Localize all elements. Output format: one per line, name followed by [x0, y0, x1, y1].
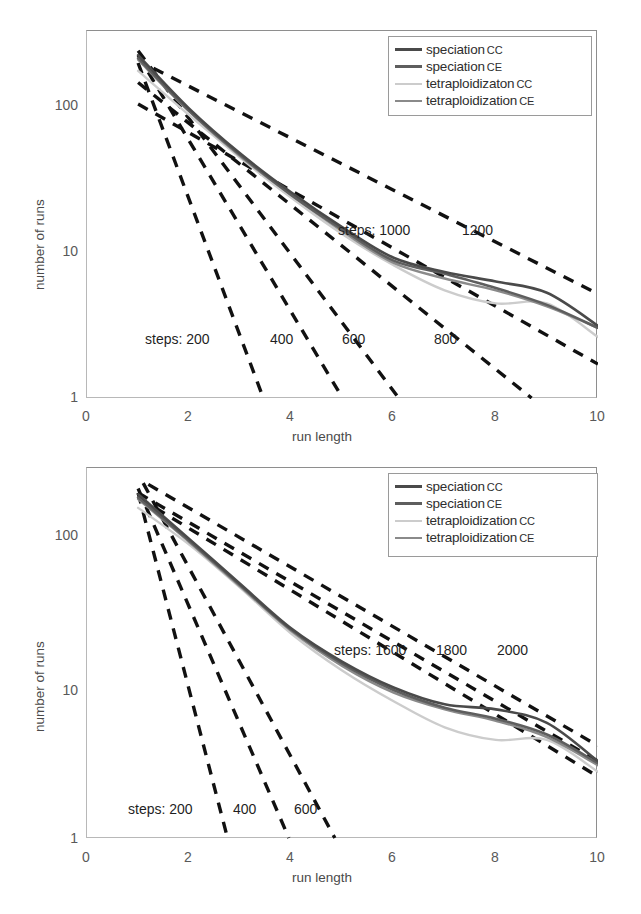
x-tick-2-top: 2: [168, 408, 208, 424]
legend-label-tetraploidization-cc: tetraploidization: [426, 513, 517, 528]
y-tick-1-bottom: 1: [30, 830, 78, 846]
legend-swatch-tetraploidization-cc: [395, 83, 422, 85]
x-tick-8-top: 8: [475, 408, 515, 424]
x-tick-4-bottom: 4: [270, 849, 310, 865]
legend-sublabel-tetraploidization-cc: CC: [519, 515, 535, 527]
annotation-steps-200-top: steps: 200: [145, 331, 210, 347]
y-tick-1-top: 1: [30, 389, 78, 405]
legend-sublabel-tetraploidization-cc: CC: [516, 78, 532, 90]
x-tick-4-top: 4: [270, 408, 310, 424]
x-tick-0-top: 0: [66, 408, 106, 424]
legend-swatch-speciation-ce: [395, 65, 422, 68]
legend-item-tetraploidization-ce: tetraploidization CE: [395, 92, 583, 109]
legend-sublabel-speciation-cc: CC: [487, 481, 503, 493]
legend-label-tetraploidization-ce: tetraploidization: [426, 530, 517, 545]
x-axis-label-bottom: run length: [262, 870, 382, 885]
y-tick-10-bottom: 10: [30, 682, 78, 698]
legend-label-speciation-ce: speciation: [426, 59, 485, 74]
legend-item-speciation-cc: speciation CC: [395, 478, 589, 495]
x-tick-8-bottom: 8: [475, 849, 515, 865]
legend-sublabel-speciation-ce: CE: [487, 498, 502, 510]
legend-sublabel-tetraploidization-ce: CE: [519, 95, 534, 107]
x-tick-2-bottom: 2: [168, 849, 208, 865]
legend-sublabel-tetraploidization-ce: CE: [519, 532, 534, 544]
annotation-steps-600-bottom: 600: [294, 801, 317, 817]
legend-item-speciation-ce: speciation CE: [395, 58, 583, 75]
x-tick-6-bottom: 6: [372, 849, 412, 865]
annotation-steps-600-top: 600: [342, 331, 365, 347]
annotation-steps-400-top: 400: [270, 331, 293, 347]
y-tick-10-top: 10: [30, 243, 78, 259]
legend-item-speciation-ce: speciation CE: [395, 495, 589, 512]
x-tick-6-top: 6: [372, 408, 412, 424]
annotation-steps-800-top: 800: [434, 331, 457, 347]
legend-swatch-tetraploidization-ce: [395, 100, 422, 102]
legend-swatch-speciation-cc: [395, 48, 422, 51]
annotation-steps-1600-bottom: steps: 1600: [334, 642, 406, 658]
legend-item-speciation-cc: speciation CC: [395, 41, 583, 58]
annotation-steps-2000-bottom: 2000: [497, 642, 528, 658]
legend-label-speciation-ce: speciation: [426, 496, 485, 511]
annotation-steps-1800-bottom: 1800: [436, 642, 467, 658]
legend-swatch-tetraploidization-ce: [395, 537, 422, 539]
legend-swatch-speciation-ce: [395, 502, 422, 505]
legend-item-tetraploidization-ce: tetraploidization CE: [395, 529, 589, 546]
chart-panel-top: number of runs 100 10 1 0 2 4 6 8 10 run…: [0, 0, 641, 457]
legend-top: speciation CC speciation CE tetraploidiz…: [388, 36, 592, 116]
annotation-steps-400-bottom: 400: [233, 801, 256, 817]
x-tick-0-bottom: 0: [66, 849, 106, 865]
legend-label-tetraploidization-cc: tetraploidizaton: [426, 76, 514, 91]
x-axis-label-top: run length: [262, 429, 382, 444]
annotation-steps-1200-top: 1200: [462, 222, 493, 238]
legend-sublabel-speciation-cc: CC: [487, 44, 503, 56]
legend-label-speciation-cc: speciation: [426, 479, 485, 494]
legend-item-tetraploidization-cc: tetraploidization CC: [395, 512, 589, 529]
legend-bottom: speciation CC speciation CE tetraploidiz…: [388, 473, 598, 557]
chart-panel-bottom: number of runs 100 10 1 0 2 4 6 8 10 run…: [0, 457, 641, 914]
annotation-steps-200-bottom: steps: 200: [128, 801, 193, 817]
y-tick-100-bottom: 100: [30, 527, 78, 543]
legend-sublabel-speciation-ce: CE: [487, 61, 502, 73]
legend-swatch-speciation-cc: [395, 485, 422, 488]
legend-label-tetraploidization-ce: tetraploidization: [426, 93, 517, 108]
legend-item-tetraploidization-cc: tetraploidizaton CC: [395, 75, 583, 92]
x-tick-10-bottom: 10: [577, 849, 617, 865]
legend-swatch-tetraploidization-cc: [395, 520, 422, 522]
x-tick-10-top: 10: [577, 408, 617, 424]
legend-label-speciation-cc: speciation: [426, 42, 485, 57]
y-tick-100-top: 100: [30, 97, 78, 113]
annotation-steps-1000-top: steps: 1000: [338, 222, 410, 238]
